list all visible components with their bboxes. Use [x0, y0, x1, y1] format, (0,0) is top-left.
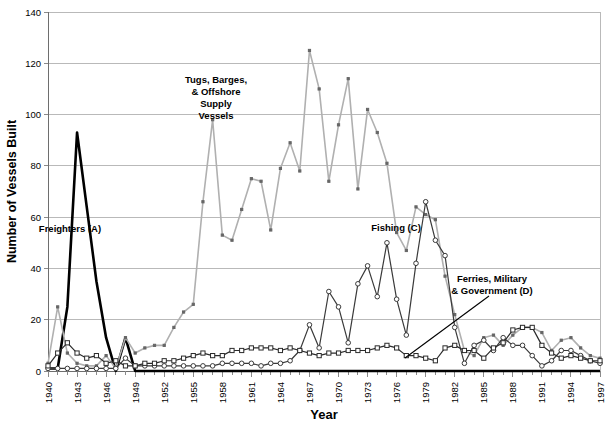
- xtick-label-1952: 1952: [159, 382, 170, 403]
- series-marker-tugs: [425, 213, 427, 215]
- series-marker-ferries: [385, 343, 389, 347]
- series-marker-tugs: [337, 124, 339, 126]
- series-marker-ferries: [472, 348, 476, 352]
- series-marker-fishing: [481, 338, 486, 343]
- series-marker-tugs: [357, 188, 359, 190]
- series-marker-fishing: [210, 364, 215, 369]
- series-marker-fishing: [65, 366, 70, 371]
- series-marker-fishing: [356, 282, 361, 287]
- series-marker-fishing: [327, 289, 332, 294]
- xtick-label-1985: 1985: [478, 382, 489, 403]
- series-marker-fishing: [569, 348, 574, 353]
- series-marker-fishing: [307, 323, 312, 328]
- series-marker-ferries: [133, 364, 137, 368]
- series-marker-ferries: [453, 343, 457, 347]
- series-marker-ferries: [598, 359, 602, 363]
- series-marker-tugs: [173, 326, 175, 328]
- series-marker-tugs: [202, 201, 204, 203]
- series-marker-tugs: [308, 49, 310, 51]
- series-marker-ferries: [491, 346, 495, 350]
- series-marker-fishing: [123, 356, 128, 361]
- series-marker-fishing: [162, 364, 167, 369]
- series-marker-tugs: [473, 355, 475, 357]
- xtick-label-1973: 1973: [362, 382, 373, 403]
- xtick-label-1949: 1949: [130, 382, 141, 403]
- series-marker-fishing: [172, 364, 177, 369]
- series-marker-tugs: [270, 229, 272, 231]
- series-marker-fishing: [220, 361, 225, 366]
- series-marker-ferries: [501, 341, 505, 345]
- series-marker-tugs: [231, 239, 233, 241]
- series-marker-tugs: [318, 88, 320, 90]
- xtick-label-1964: 1964: [275, 382, 286, 403]
- series-marker-ferries: [114, 359, 118, 363]
- series-marker-ferries: [220, 354, 224, 358]
- series-marker-ferries: [346, 348, 350, 352]
- series-marker-fishing: [433, 238, 438, 243]
- series-marker-fishing: [104, 366, 109, 371]
- series-marker-ferries: [288, 346, 292, 350]
- series-marker-fishing: [259, 364, 264, 369]
- annotation-freighters_label: Freighters (A): [39, 223, 101, 234]
- ytick-label-60: 60: [30, 212, 41, 223]
- series-marker-ferries: [249, 346, 253, 350]
- series-marker-tugs: [454, 313, 456, 315]
- ytick-label-40: 40: [30, 263, 41, 274]
- series-marker-fishing: [511, 343, 516, 348]
- series-marker-ferries: [152, 361, 156, 365]
- xtick-label-1958: 1958: [217, 382, 228, 403]
- series-marker-fishing: [288, 358, 293, 363]
- ytick-label-100: 100: [25, 109, 41, 120]
- series-marker-ferries: [579, 356, 583, 360]
- series-marker-ferries: [520, 325, 524, 329]
- series-marker-ferries: [317, 354, 321, 358]
- annotation-tugs_label: Tugs, Barges,& OffshoreSupplyVessels: [185, 74, 247, 121]
- ytick-label-0: 0: [36, 366, 41, 377]
- series-marker-tugs: [376, 131, 378, 133]
- series-marker-ferries: [65, 341, 69, 345]
- series-marker-ferries: [375, 346, 379, 350]
- series-marker-ferries: [530, 325, 534, 329]
- xtick-label-1991: 1991: [536, 382, 547, 403]
- xtick-label-1967: 1967: [304, 382, 315, 403]
- vessels-built-line-chart: 0204060801001201401940194319461949195219…: [0, 0, 614, 427]
- series-marker-fishing: [365, 264, 370, 269]
- xtick-label-1994: 1994: [565, 382, 576, 403]
- series-marker-tugs: [192, 303, 194, 305]
- xtick-label-1979: 1979: [420, 382, 431, 403]
- xtick-label-1997: 1997: [595, 382, 606, 403]
- series-marker-fishing: [385, 240, 390, 245]
- series-marker-ferries: [201, 351, 205, 355]
- series-marker-ferries: [85, 356, 89, 360]
- series-marker-tugs: [66, 352, 68, 354]
- series-marker-tugs: [144, 347, 146, 349]
- chart-figure: 0204060801001201401940194319461949195219…: [0, 0, 614, 427]
- series-marker-tugs: [347, 78, 349, 80]
- series-marker-tugs: [279, 167, 281, 169]
- series-marker-tugs: [289, 142, 291, 144]
- ytick-label-80: 80: [30, 160, 41, 171]
- series-marker-ferries: [395, 346, 399, 350]
- series-marker-fishing: [520, 343, 525, 348]
- series-marker-tugs: [415, 206, 417, 208]
- series-marker-fishing: [530, 353, 535, 358]
- series-marker-fishing: [452, 325, 457, 330]
- series-marker-tugs: [134, 352, 136, 354]
- series-marker-ferries: [94, 354, 98, 358]
- series-marker-tugs: [444, 275, 446, 277]
- series-marker-fishing: [94, 366, 99, 371]
- series-marker-fishing: [239, 361, 244, 366]
- series-marker-fishing: [549, 358, 554, 363]
- series-marker-ferries: [240, 348, 244, 352]
- series-marker-tugs: [57, 306, 59, 308]
- series-marker-ferries: [433, 359, 437, 363]
- series-marker-fishing: [414, 261, 419, 266]
- series-marker-ferries: [46, 364, 50, 368]
- series-marker-fishing: [472, 343, 477, 348]
- series-marker-ferries: [327, 351, 331, 355]
- series-marker-ferries: [443, 346, 447, 350]
- series-marker-ferries: [162, 359, 166, 363]
- series-marker-ferries: [75, 351, 79, 355]
- series-marker-ferries: [424, 356, 428, 360]
- series-marker-tugs: [182, 311, 184, 313]
